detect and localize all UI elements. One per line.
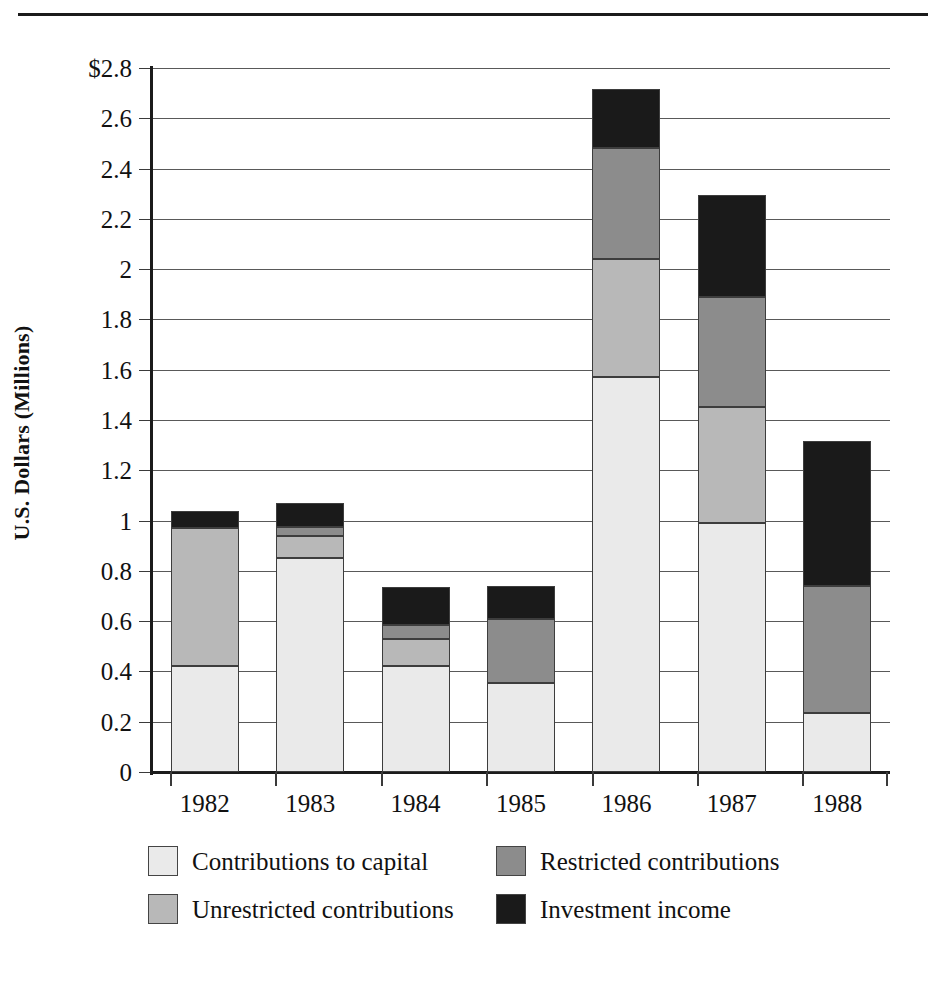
black-swatch — [496, 894, 526, 924]
legend-item[interactable]: Contributions to capital — [148, 846, 428, 876]
bar-segment[interactable] — [171, 666, 239, 772]
bar-segment[interactable] — [698, 195, 766, 297]
x-axis-tick — [486, 772, 488, 786]
bar-1987[interactable] — [698, 68, 766, 772]
y-axis-tick-label: 1.4 — [101, 408, 132, 433]
bar-segment[interactable] — [487, 619, 555, 683]
medium-gray-swatch — [496, 846, 526, 876]
bar-segment[interactable] — [698, 407, 766, 523]
chart-legend: Contributions to capitalRestricted contr… — [148, 846, 908, 942]
y-axis-tick-label: 0 — [120, 760, 133, 785]
bar-segment[interactable] — [171, 511, 239, 529]
bar-segment[interactable] — [276, 558, 344, 772]
x-axis-tick-label: 1985 — [496, 790, 546, 818]
bar-segment[interactable] — [382, 666, 450, 772]
y-axis-tick-label: 1.6 — [101, 357, 132, 382]
bar-segment[interactable] — [698, 297, 766, 408]
x-axis-tick — [802, 772, 804, 786]
bar-segment[interactable] — [592, 377, 660, 772]
bar-1984[interactable] — [382, 68, 450, 772]
y-axis-tick-label: 0.4 — [101, 659, 132, 684]
bar-segment[interactable] — [171, 528, 239, 666]
x-axis-tick — [886, 772, 888, 786]
x-axis-tick — [697, 772, 699, 786]
light-gray-swatch — [148, 846, 178, 876]
y-axis-tick-label: 0.8 — [101, 558, 132, 583]
x-axis-tick-label: 1982 — [180, 790, 230, 818]
x-axis-tick-label: 1988 — [812, 790, 862, 818]
bar-1988[interactable] — [803, 68, 871, 772]
x-axis-tick — [275, 772, 277, 786]
bar-1982[interactable] — [171, 68, 239, 772]
bar-segment[interactable] — [487, 586, 555, 619]
bar-segment[interactable] — [803, 586, 871, 713]
bar-segment[interactable] — [276, 503, 344, 527]
bar-segment[interactable] — [592, 259, 660, 377]
y-axis-labels: $2.82.62.42.221.81.61.41.210.80.60.40.20 — [0, 0, 132, 989]
bar-segment[interactable] — [382, 587, 450, 625]
legend-label: Unrestricted contributions — [192, 897, 454, 922]
y-axis-tick-label: 0.2 — [101, 709, 132, 734]
legend-label: Investment income — [540, 897, 731, 922]
x-axis-tick-label: 1987 — [707, 790, 757, 818]
bar-segment[interactable] — [276, 536, 344, 559]
legend-item[interactable]: Investment income — [496, 894, 731, 924]
bar-segment[interactable] — [698, 523, 766, 772]
y-axis-line — [150, 66, 153, 775]
bar-1986[interactable] — [592, 68, 660, 772]
bar-segment[interactable] — [276, 527, 344, 536]
bar-segment[interactable] — [382, 625, 450, 639]
x-axis-tick-label: 1986 — [601, 790, 651, 818]
y-axis-tick-label: 1.8 — [101, 307, 132, 332]
chart-page: U.S. Dollars (Millions) $2.82.62.42.221.… — [0, 0, 946, 989]
bar-segment[interactable] — [592, 148, 660, 259]
bar-segment[interactable] — [382, 639, 450, 667]
legend-item[interactable]: Unrestricted contributions — [148, 894, 454, 924]
gray-swatch — [148, 894, 178, 924]
y-axis-tick-label: $2.8 — [88, 56, 132, 81]
legend-label: Contributions to capital — [192, 849, 428, 874]
y-axis-tick-label: 2 — [120, 257, 133, 282]
y-axis-tick-label: 2.6 — [101, 106, 132, 131]
x-axis-tick — [170, 772, 172, 786]
y-axis-tick-label: 0.6 — [101, 609, 132, 634]
y-axis-tick-label: 1 — [120, 508, 133, 533]
stacked-bar-chart: U.S. Dollars (Millions) $2.82.62.42.221.… — [0, 0, 946, 989]
bar-segment[interactable] — [487, 683, 555, 772]
bar-segment[interactable] — [592, 89, 660, 148]
legend-item[interactable]: Restricted contributions — [496, 846, 780, 876]
bar-segment[interactable] — [803, 441, 871, 586]
legend-label: Restricted contributions — [540, 849, 780, 874]
y-axis-tick-label: 1.2 — [101, 458, 132, 483]
x-axis-tick-label: 1983 — [285, 790, 335, 818]
bar-1983[interactable] — [276, 68, 344, 772]
x-axis-tick-label: 1984 — [391, 790, 441, 818]
bar-1985[interactable] — [487, 68, 555, 772]
x-axis-tick — [381, 772, 383, 786]
x-axis-tick — [592, 772, 594, 786]
y-axis-tick-label: 2.4 — [101, 156, 132, 181]
bar-segment[interactable] — [803, 713, 871, 772]
y-axis-tick-label: 2.2 — [101, 206, 132, 231]
